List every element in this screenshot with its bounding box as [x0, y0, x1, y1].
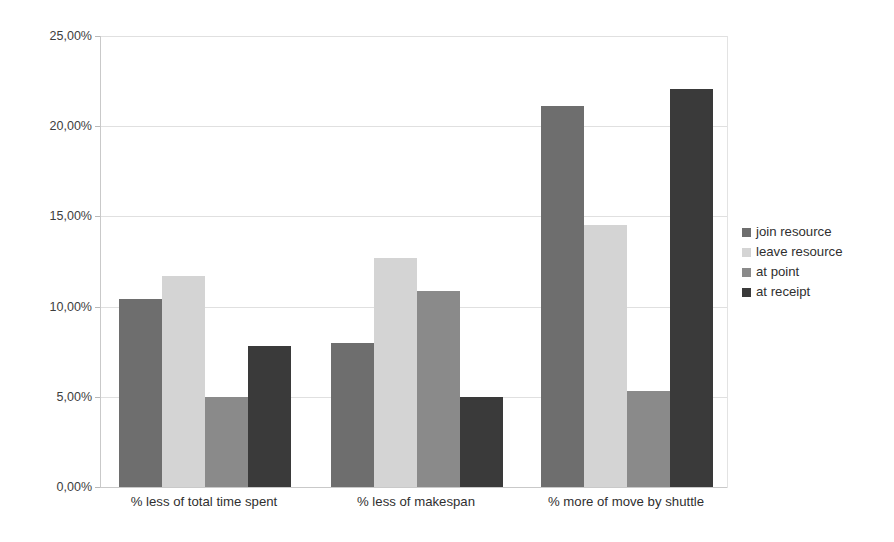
legend-swatch-icon: [742, 288, 751, 297]
legend-item-label: at receipt: [756, 285, 810, 298]
legend-item: join resource: [742, 222, 882, 242]
legend-item: at point: [742, 262, 882, 282]
y-tick-label: 15,00%: [0, 209, 92, 223]
legend-item-label: join resource: [756, 225, 832, 238]
bar: [627, 391, 670, 487]
legend-item: at receipt: [742, 282, 882, 302]
y-tick-label: 20,00%: [0, 119, 92, 133]
bar-group: [119, 36, 291, 487]
plot-area: [100, 36, 728, 488]
bar: [162, 276, 205, 487]
bar: [584, 225, 627, 487]
bar: [460, 397, 503, 487]
bar: [670, 89, 713, 487]
plot-right-border: [727, 36, 728, 488]
legend-item-label: leave resource: [756, 245, 843, 258]
bar: [331, 343, 374, 487]
y-axis: 0,00%5,00%10,00%15,00%20,00%25,00%: [0, 0, 94, 542]
y-tick-label: 5,00%: [0, 390, 92, 404]
bar: [374, 258, 417, 487]
bar-group: [331, 36, 503, 487]
bar: [417, 291, 460, 487]
bar: [119, 299, 162, 487]
legend-swatch-icon: [742, 248, 751, 257]
bar: [205, 397, 248, 487]
bar: [248, 346, 291, 487]
y-tick-label: 25,00%: [0, 29, 92, 43]
legend: join resourceleave resourceat pointat re…: [742, 222, 882, 302]
bar-chart: 0,00%5,00%10,00%15,00%20,00%25,00% % les…: [0, 0, 894, 542]
y-tick-label: 10,00%: [0, 300, 92, 314]
legend-swatch-icon: [742, 268, 751, 277]
x-axis-label: % more of move by shuttle: [476, 494, 776, 509]
legend-swatch-icon: [742, 228, 751, 237]
y-tick-label: 0,00%: [0, 480, 92, 494]
legend-item-label: at point: [756, 265, 799, 278]
bar: [541, 106, 584, 487]
legend-item: leave resource: [742, 242, 882, 262]
bar-group: [541, 36, 713, 487]
